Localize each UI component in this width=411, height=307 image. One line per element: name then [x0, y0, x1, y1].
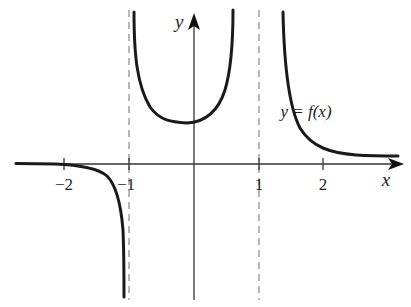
tick-label-minus-2: −2 — [55, 175, 73, 194]
x-axis-label: x — [381, 169, 391, 190]
tick-label-2: 2 — [319, 175, 328, 194]
tick-label-1: 1 — [255, 175, 264, 194]
right-branch — [283, 12, 398, 156]
middle-branch — [134, 10, 233, 123]
y-axis-label: y — [173, 11, 184, 32]
curve — [16, 10, 398, 297]
function-label: y = f(x) — [278, 102, 331, 121]
tick-label-minus-1: −1 — [117, 175, 135, 194]
function-graph: −2 −1 1 2 y x y = f(x) — [0, 0, 411, 307]
